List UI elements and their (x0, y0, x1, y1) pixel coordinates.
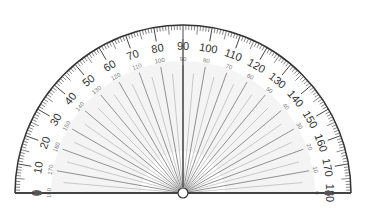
degree-tick (142, 30, 143, 35)
degree-tick (292, 68, 295, 72)
inner-degree-label: 10 (312, 166, 319, 174)
degree-tick (131, 33, 133, 38)
degree-tick (168, 26, 169, 35)
degree-tick (18, 164, 32, 166)
degree-tick (260, 45, 262, 49)
degree-tick (228, 32, 229, 37)
outer-degree-label: 30 (47, 111, 64, 128)
degree-tick (313, 92, 317, 95)
degree-tick (241, 36, 243, 41)
degree-tick (24, 138, 29, 140)
center-hole (178, 188, 188, 198)
degree-tick (344, 170, 349, 171)
degree-tick (17, 170, 22, 171)
degree-tick (49, 92, 53, 95)
degree-tick (30, 125, 35, 127)
outer-degree-label: 60 (101, 57, 118, 74)
degree-tick (16, 173, 21, 174)
degree-tick (345, 175, 350, 176)
degree-tick (82, 59, 85, 63)
degree-tick (51, 90, 55, 93)
degree-tick (262, 46, 264, 50)
degree-tick (94, 51, 97, 55)
degree-tick (335, 133, 340, 135)
degree-tick (160, 27, 161, 32)
degree-tick (163, 26, 164, 31)
degree-tick (92, 52, 95, 56)
degree-tick (282, 64, 291, 75)
degree-tick (300, 76, 304, 79)
degree-tick (26, 133, 31, 135)
degree-tick (338, 141, 343, 143)
inner-degree-label: 80 (203, 57, 211, 64)
degree-tick (337, 150, 346, 152)
degree-tick (344, 167, 349, 168)
degree-tick (197, 26, 198, 35)
protractor-diagram: 0102030405060708090100110120130140150160… (0, 0, 366, 208)
degree-tick (310, 87, 314, 90)
degree-tick (157, 27, 158, 32)
degree-tick (302, 78, 306, 81)
degree-tick (328, 117, 332, 119)
degree-tick (19, 155, 24, 156)
degree-tick (327, 114, 331, 116)
degree-tick (224, 31, 226, 40)
degree-tick (36, 112, 40, 114)
degree-tick (269, 51, 272, 55)
right-zero-marker (324, 191, 332, 196)
degree-tick (134, 32, 135, 37)
degree-tick (62, 76, 66, 79)
degree-tick (281, 59, 284, 63)
degree-tick (99, 48, 106, 60)
degree-tick (304, 81, 308, 84)
degree-tick (249, 40, 251, 45)
degree-tick (340, 147, 345, 148)
degree-tick (19, 158, 24, 159)
degree-tick (165, 26, 166, 31)
left-zero-marker (34, 191, 42, 196)
degree-tick (279, 57, 282, 61)
degree-tick (140, 31, 142, 40)
degree-tick (148, 29, 149, 34)
degree-tick (323, 106, 327, 109)
outer-degree-label: 10 (31, 160, 45, 174)
degree-tick (102, 46, 104, 50)
degree-tick (301, 85, 312, 94)
outer-degree-label: 20 (37, 135, 52, 151)
degree-tick (296, 72, 299, 76)
degree-tick (345, 173, 350, 174)
degree-tick (316, 109, 328, 116)
degree-tick (80, 61, 83, 65)
degree-tick (52, 87, 56, 90)
degree-tick (254, 42, 256, 46)
degree-tick (145, 29, 146, 34)
outer-degree-label: 170 (320, 157, 335, 177)
degree-tick (58, 81, 62, 84)
degree-tick (337, 138, 342, 140)
degree-tick (311, 90, 315, 93)
degree-tick (318, 99, 322, 102)
degree-tick (154, 28, 156, 42)
degree-tick (217, 29, 218, 34)
degree-tick (222, 30, 223, 35)
degree-tick (326, 112, 330, 114)
degree-tick (200, 26, 201, 31)
degree-tick (137, 32, 138, 37)
degree-tick (66, 72, 69, 76)
outer-degree-label: 50 (80, 72, 97, 89)
degree-tick (214, 28, 215, 33)
degree-tick (233, 33, 235, 38)
degree-tick (123, 36, 125, 41)
degree-tick (274, 54, 277, 58)
degree-tick (247, 38, 249, 43)
degree-tick (306, 83, 310, 86)
degree-tick (112, 41, 116, 49)
degree-tick (332, 125, 337, 127)
degree-tick (210, 28, 212, 42)
degree-tick (20, 152, 25, 153)
degree-tick (68, 70, 71, 74)
degree-tick (339, 144, 344, 145)
degree-tick (120, 37, 122, 42)
degree-tick (315, 94, 319, 97)
protractor: 0102030405060708090100110120130140150160… (0, 0, 366, 208)
